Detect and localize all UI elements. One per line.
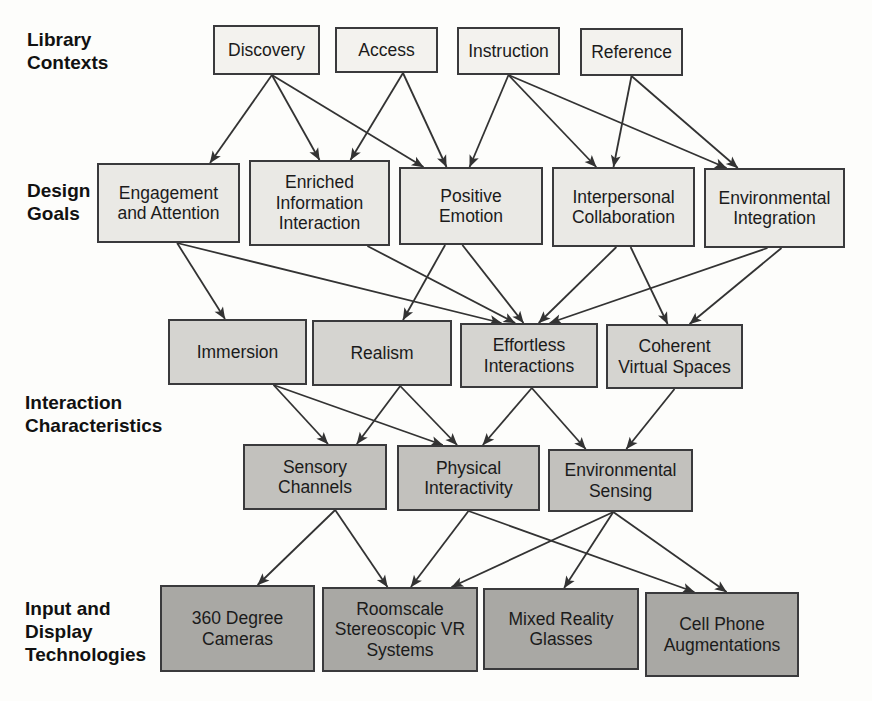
edge-effortless-to-physical: [483, 388, 532, 445]
node-access: Access: [335, 27, 438, 73]
node-env_sensing: Environmental Sensing: [548, 449, 693, 512]
node-roomscale: Roomscale Stereoscopic VR Systems: [322, 587, 478, 672]
edge-coherent-to-env_sensing: [626, 389, 674, 449]
edge-engagement-to-immersion: [177, 243, 225, 319]
edge-reference-to-env_integration: [632, 76, 738, 168]
node-realism: Realism: [312, 320, 452, 386]
edge-access-to-positive: [403, 73, 447, 167]
node-discovery: Discovery: [213, 25, 320, 75]
edge-instruction-to-interpersonal: [509, 75, 597, 167]
node-enriched: Enriched Information Interaction: [249, 160, 390, 246]
section-label-input-display-technologies: Input and Display Technologies: [25, 597, 146, 667]
node-immersion: Immersion: [168, 319, 307, 385]
edge-instruction-to-env_integration: [509, 75, 727, 168]
edge-interpersonal-to-effortless: [539, 247, 617, 323]
node-cellphone: Cell Phone Augmentations: [645, 592, 799, 677]
node-reference: Reference: [580, 28, 683, 76]
section-label-design-goals: Design Goals: [27, 179, 90, 225]
edge-discovery-to-positive: [272, 75, 424, 167]
edge-physical-to-roomscale: [411, 511, 469, 587]
edge-interpersonal-to-coherent: [631, 247, 668, 324]
node-physical: Physical Interactivity: [397, 445, 540, 511]
section-label-library-contexts: Library Contexts: [27, 28, 108, 74]
edge-effortless-to-env_sensing: [532, 388, 586, 449]
node-sensory: Sensory Channels: [243, 444, 387, 510]
node-positive: Positive Emotion: [399, 167, 543, 245]
node-coherent: Coherent Virtual Spaces: [606, 324, 743, 389]
node-env_integration: Environmental Integration: [704, 168, 845, 248]
edge-discovery-to-enriched: [272, 75, 320, 160]
node-effortless: Effortless Interactions: [460, 323, 598, 388]
edge-engagement-to-effortless: [177, 243, 501, 323]
node-mixed: Mixed Reality Glasses: [483, 588, 639, 670]
edge-sensory-to-roomscale: [335, 510, 387, 587]
edge-env_sensing-to-cellphone: [613, 512, 726, 592]
node-cameras: 360 Degree Cameras: [160, 585, 315, 672]
edge-discovery-to-engagement: [210, 75, 272, 163]
diagram-canvas: Library Contexts Design Goals Interactio…: [0, 0, 872, 701]
edge-immersion-to-physical: [274, 385, 443, 445]
edge-realism-to-sensory: [357, 386, 400, 444]
edge-physical-to-cellphone: [469, 511, 695, 592]
node-engagement: Engagement and Attention: [97, 163, 240, 243]
section-label-interaction-characteristics: Interaction Characteristics: [25, 391, 162, 437]
node-instruction: Instruction: [457, 27, 560, 75]
edge-realism-to-physical: [400, 386, 457, 445]
edge-access-to-enriched: [351, 73, 404, 160]
edge-instruction-to-positive: [470, 75, 509, 167]
node-interpersonal: Interpersonal Collaboration: [552, 167, 695, 247]
edge-sensory-to-cameras: [258, 510, 336, 585]
